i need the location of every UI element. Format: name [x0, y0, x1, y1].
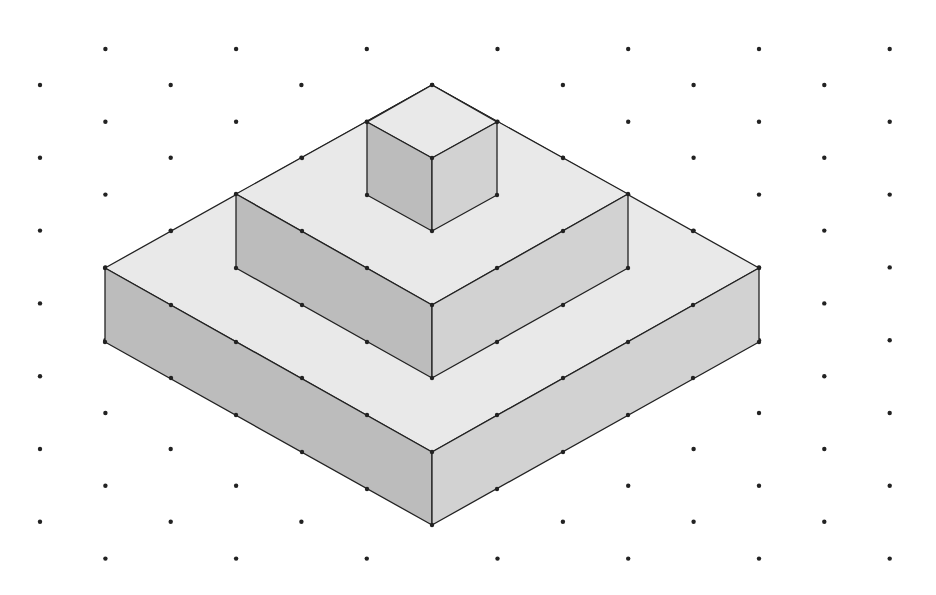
grid-dot — [822, 447, 826, 451]
vertex-dot — [430, 303, 434, 307]
vertex-dot — [169, 376, 173, 380]
vertex-dot — [430, 156, 434, 160]
vertex-dot — [691, 229, 695, 233]
vertex-dot — [365, 413, 369, 417]
grid-dot — [495, 47, 499, 51]
vertex-dot — [561, 450, 565, 454]
grid-dot — [757, 484, 761, 488]
vertex-dot — [430, 376, 434, 380]
grid-dot — [626, 120, 630, 124]
grid-dot — [103, 556, 107, 560]
vertex-dot — [757, 266, 761, 270]
grid-dot — [888, 556, 892, 560]
vertex-dot — [691, 303, 695, 307]
vertex-dot — [626, 413, 630, 417]
grid-dot — [234, 556, 238, 560]
grid-dot — [103, 411, 107, 415]
vertex-dot — [495, 193, 499, 197]
grid-dot — [626, 556, 630, 560]
grid-dot — [757, 192, 761, 196]
vertex-dot — [169, 229, 173, 233]
grid-dot — [822, 228, 826, 232]
vertex-dot — [626, 340, 630, 344]
vertex-dot — [365, 340, 369, 344]
vertex-dot — [234, 266, 238, 270]
grid-dot — [38, 228, 42, 232]
vertex-dot — [365, 193, 369, 197]
grid-dot — [691, 447, 695, 451]
vertex-dot — [169, 303, 173, 307]
grid-dot — [822, 301, 826, 305]
grid-dot — [169, 156, 173, 160]
grid-dot — [888, 120, 892, 124]
grid-dot — [38, 520, 42, 524]
vertex-dot — [234, 340, 238, 344]
vertex-dot — [300, 376, 304, 380]
grid-dot — [888, 411, 892, 415]
grid-dot — [234, 47, 238, 51]
grid-dot — [495, 556, 499, 560]
vertex-dot — [430, 83, 434, 87]
grid-dot — [822, 156, 826, 160]
grid-dot — [169, 520, 173, 524]
grid-dot — [365, 47, 369, 51]
grid-dot — [38, 83, 42, 87]
grid-dot — [888, 338, 892, 342]
grid-dot — [38, 447, 42, 451]
vertex-dot — [495, 487, 499, 491]
vertex-dot — [626, 192, 630, 196]
grid-dot — [103, 484, 107, 488]
vertex-dot — [495, 266, 499, 270]
isometric-diagram — [0, 0, 936, 595]
grid-dot — [757, 47, 761, 51]
vertex-dot — [300, 450, 304, 454]
vertex-dot — [561, 156, 565, 160]
vertex-dot — [495, 413, 499, 417]
grid-dot — [691, 520, 695, 524]
grid-dot — [299, 83, 303, 87]
grid-dot — [822, 83, 826, 87]
vertex-dot — [626, 266, 630, 270]
vertex-dot — [430, 229, 434, 233]
grid-dot — [561, 520, 565, 524]
vertex-dot — [561, 303, 565, 307]
grid-dot — [103, 47, 107, 51]
vertex-dot — [430, 523, 434, 527]
vertex-dot — [495, 340, 499, 344]
grid-dot — [103, 120, 107, 124]
vertex-dot — [365, 266, 369, 270]
grid-dot — [822, 520, 826, 524]
grid-dot — [888, 265, 892, 269]
grid-dot — [103, 192, 107, 196]
grid-dot — [691, 83, 695, 87]
vertex-dot — [561, 376, 565, 380]
grid-dot — [757, 120, 761, 124]
grid-dot — [169, 83, 173, 87]
vertex-dot — [495, 120, 499, 124]
grid-dot — [691, 156, 695, 160]
grid-dot — [561, 83, 565, 87]
vertex-dot — [561, 229, 565, 233]
vertex-dot — [103, 266, 107, 270]
grid-dot — [888, 484, 892, 488]
vertex-dot — [300, 229, 304, 233]
vertex-dot — [430, 450, 434, 454]
grid-dot — [626, 47, 630, 51]
vertex-dot — [365, 120, 369, 124]
grid-dot — [38, 156, 42, 160]
grid-dot — [626, 484, 630, 488]
grid-dot — [822, 374, 826, 378]
grid-dot — [365, 556, 369, 560]
vertex-dot — [234, 192, 238, 196]
grid-dot — [169, 447, 173, 451]
vertex-dot — [103, 340, 107, 344]
grid-dot — [888, 192, 892, 196]
vertex-dot — [691, 376, 695, 380]
vertex-dot — [300, 303, 304, 307]
vertex-dot — [757, 340, 761, 344]
grid-dot — [299, 520, 303, 524]
grid-dot — [234, 484, 238, 488]
vertex-dot — [365, 487, 369, 491]
grid-dot — [757, 411, 761, 415]
grid-dot — [38, 301, 42, 305]
